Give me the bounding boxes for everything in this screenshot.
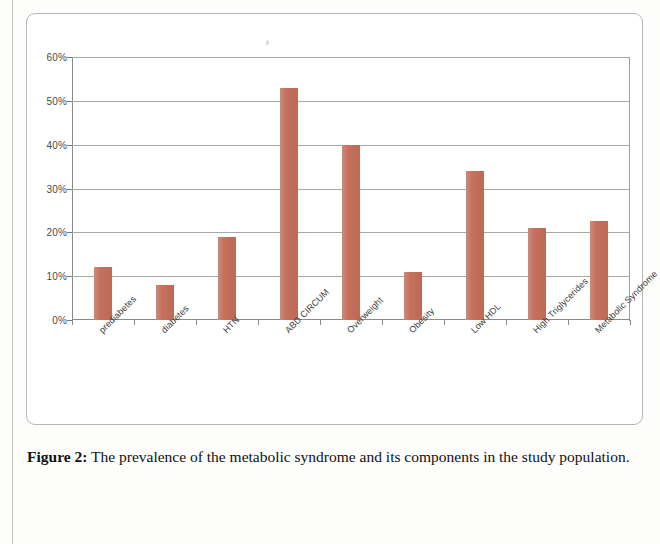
y-axis-tick-label: 60% — [46, 52, 67, 63]
gridline — [72, 101, 630, 102]
y-axis-tick-labels: 0%10%20%30%40%50%60% — [36, 57, 67, 320]
y-axis-tick-mark — [67, 57, 72, 58]
x-axis-tick-mark — [382, 320, 383, 325]
y-axis-tick-label: 30% — [46, 183, 67, 194]
bar-low-hdl — [466, 171, 484, 320]
y-axis-tick-mark — [67, 101, 72, 102]
bar-htn — [218, 237, 236, 320]
y-axis-tick-label: 40% — [46, 139, 67, 150]
y-axis-tick-label: 50% — [46, 95, 67, 106]
y-axis-tick-mark — [67, 189, 72, 190]
x-axis-tick-mark — [630, 320, 631, 325]
x-axis-tick-mark — [72, 320, 73, 325]
figure-number-label: Figure 2: — [27, 448, 87, 465]
gridline — [72, 57, 630, 58]
y-axis-tick-label: 20% — [46, 227, 67, 238]
y-axis-tick-label: 10% — [46, 271, 67, 282]
bar-obesity — [404, 272, 422, 320]
x-axis-tick-mark — [134, 320, 135, 325]
page-margin-rule — [12, 0, 13, 544]
figure-caption-text: The prevalence of the metabolic syndrome… — [87, 448, 629, 465]
bar-prediabetes — [94, 267, 112, 320]
y-axis-tick-mark — [67, 232, 72, 233]
bar-metabolic-syndrome — [590, 221, 608, 320]
y-axis-tick-label: 0% — [52, 315, 67, 326]
bar-high-triglycerides — [528, 228, 546, 320]
plot-area — [72, 57, 630, 320]
y-axis-tick-mark — [67, 145, 72, 146]
bar-abd-circum — [280, 88, 298, 320]
x-axis-tick-mark — [196, 320, 197, 325]
x-axis-tick-mark — [568, 320, 569, 325]
x-axis-tick-mark — [506, 320, 507, 325]
scan-artifact-speck — [266, 40, 269, 45]
x-axis-tick-mark — [320, 320, 321, 325]
x-axis-tick-mark — [258, 320, 259, 325]
x-axis-tick-mark — [444, 320, 445, 325]
y-axis-tick-mark — [67, 276, 72, 277]
bar-overweight — [342, 145, 360, 320]
figure-caption: Figure 2: The prevalence of the metaboli… — [27, 444, 634, 469]
